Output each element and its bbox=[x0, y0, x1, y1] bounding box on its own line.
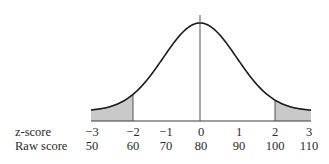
raw-tick: 70 bbox=[160, 139, 173, 153]
z-tick: 0 bbox=[198, 125, 204, 139]
raw-tick: 50 bbox=[86, 139, 99, 153]
raw-tick: 80 bbox=[195, 139, 208, 153]
raw-tick: 60 bbox=[127, 139, 140, 153]
raw-score-row-label: Raw score bbox=[15, 139, 68, 153]
raw-score-tick-labels: 50 60 70 80 90 100 110 bbox=[86, 139, 318, 153]
shaded-tails bbox=[91, 94, 311, 121]
normal-distribution-chart: z-score Raw score −3 −2 −1 0 1 2 3 50 60… bbox=[0, 0, 329, 164]
z-tick: 2 bbox=[272, 125, 278, 139]
raw-tick: 110 bbox=[300, 139, 318, 153]
normal-curve bbox=[91, 23, 311, 110]
z-score-row-label: z-score bbox=[15, 125, 52, 139]
z-score-tick-labels: −3 −2 −1 0 1 2 3 bbox=[85, 125, 312, 139]
z-tick: −3 bbox=[85, 125, 98, 139]
z-tick: −1 bbox=[159, 125, 172, 139]
z-tick: 1 bbox=[236, 125, 242, 139]
raw-tick: 90 bbox=[233, 139, 246, 153]
raw-tick: 100 bbox=[266, 139, 285, 153]
z-tick: −2 bbox=[126, 125, 139, 139]
z-tick: 3 bbox=[306, 125, 312, 139]
